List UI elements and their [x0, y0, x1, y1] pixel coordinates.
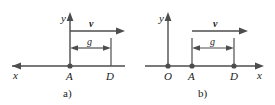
velocity-vector-arrowhead-b: [239, 28, 248, 35]
x-axis-label-b: x: [257, 70, 262, 81]
velocity-vector-arrowhead-a: [116, 28, 125, 35]
dimension-arrowhead-left-a: [70, 45, 78, 51]
panel-caption-a: a): [63, 88, 72, 99]
point-marker-d-b: [231, 63, 236, 68]
dimension-arrowhead-left-b: [192, 45, 200, 51]
diagram-panel-b: y x v g O A D b): [137, 0, 275, 105]
y-axis-label-b: y: [159, 13, 164, 24]
distance-label-a: g: [87, 37, 92, 47]
point-marker-a-b: [189, 63, 194, 68]
velocity-label-a: v: [89, 19, 93, 29]
y-axis-arrowhead-b: [165, 12, 172, 21]
point-label-a-A: A: [66, 71, 73, 82]
physics-figure: y x v g A D a): [0, 0, 275, 105]
panel-caption-b: b): [198, 88, 207, 99]
point-marker-a: [67, 63, 72, 68]
dimension-arrowhead-right-b: [226, 45, 234, 51]
x-axis-label-a: x: [13, 70, 18, 81]
point-label-b-O: O: [164, 71, 172, 82]
point-label-b-D: D: [230, 71, 238, 82]
point-marker-o-b: [165, 63, 170, 68]
diagram-panel-a: y x v g A D a): [0, 0, 137, 105]
y-axis-label-a: y: [61, 13, 66, 24]
point-label-b-A: A: [188, 71, 195, 82]
point-label-a-D: D: [106, 71, 114, 82]
y-axis-arrowhead-a: [67, 12, 74, 21]
distance-label-b: g: [210, 37, 215, 47]
dimension-arrowhead-right-a: [103, 45, 111, 51]
velocity-label-b: v: [213, 19, 217, 29]
